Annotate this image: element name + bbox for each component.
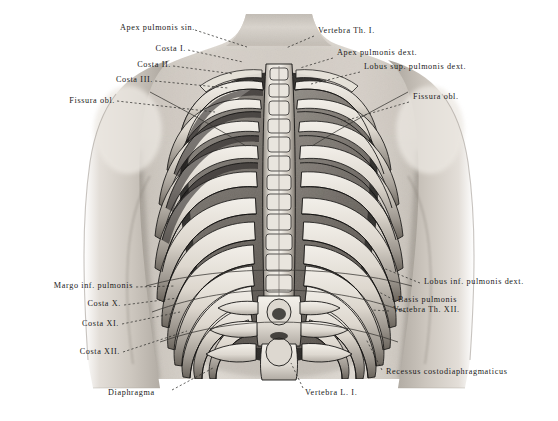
label-basis-pulmonis: Basis pulmonis [398, 295, 457, 305]
label-vertebra-th-i: Vertebra Th. I. [318, 26, 375, 36]
label-fissura-obl-dext: Fissura obl. [413, 92, 459, 102]
label-costa-xi: Costa XI. [0, 319, 119, 329]
label-apex-pulmonis-sin: Apex pulmonis sin. [0, 23, 195, 33]
label-costa-iii: Costa III. [0, 75, 153, 85]
label-lobus-inf-pulmonis-dext: Lobus inf. pulmonis dext. [424, 277, 524, 287]
label-fissura-obl-sin: Fissura obl. [0, 96, 115, 106]
anatomical-plate: Apex pulmonis sin. Costa I. Costa II. Co… [0, 0, 558, 421]
label-costa-x: Costa X. [0, 299, 121, 309]
label-margo-inf-pulmonis: Margo inf. pulmonis [0, 281, 133, 291]
label-costa-i: Costa I. [0, 44, 186, 54]
label-vertebra-th-xii: Vertebra Th. XII. [393, 305, 460, 315]
label-costa-ii: Costa II. [0, 60, 171, 70]
label-vertebra-l-i: Vertebra L. I. [305, 388, 357, 398]
label-recessus-costodiaphragmaticus: Recessus costodiaphragmaticus [386, 367, 507, 377]
label-apex-pulmonis-dext: Apex pulmonis dext. [337, 48, 417, 58]
label-diaphragma: Diaphragma [108, 388, 155, 398]
label-costa-xii: Costa XII. [0, 347, 120, 357]
label-lobus-sup-pulmonis-dext: Lobus sup. pulmonis dext. [364, 62, 466, 72]
